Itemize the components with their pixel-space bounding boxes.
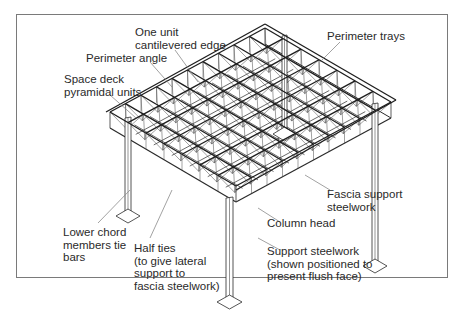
label-lower-chord-members-tie-bars: Lower chord members tie bars — [63, 226, 126, 264]
label-half-ties: Half ties (to give lateral support to fa… — [134, 242, 220, 292]
label-space-deck-pyramidal-units: Space deck pyramidal units — [64, 73, 141, 98]
label-column-head: Column head — [267, 217, 335, 230]
label-one-unit-cantilevered-edge: One unit cantilevered edge — [135, 26, 226, 51]
space-deck-drawing — [0, 0, 462, 312]
label-perimeter-trays: Perimeter trays — [327, 30, 405, 43]
label-fascia-support-steelwork: Fascia support steelwork — [327, 188, 402, 213]
label-support-steelwork: Support steelwork (shown positioned to p… — [267, 245, 372, 283]
label-perimeter-angle: Perimeter angle — [86, 52, 167, 65]
